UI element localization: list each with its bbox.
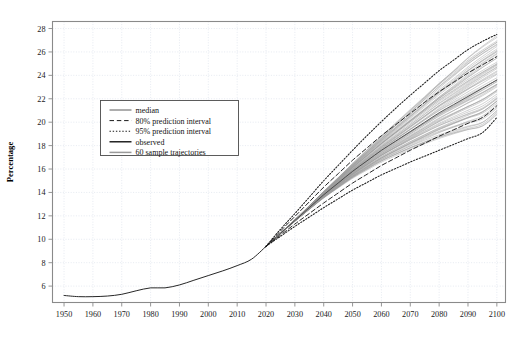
x-tick-label: 1990 [171, 310, 187, 319]
y-tick-label: 26 [37, 48, 45, 57]
y-tick-label: 10 [37, 235, 45, 244]
x-tick-label: 1980 [142, 310, 158, 319]
x-tick-label: 2000 [200, 310, 216, 319]
x-tick-label: 2060 [373, 310, 389, 319]
chart-svg: 1950196019701980199020002010202020302040… [0, 0, 517, 339]
y-tick-label: 14 [37, 188, 45, 197]
y-tick-label: 12 [37, 212, 45, 221]
x-tick-label: 2040 [316, 310, 332, 319]
y-tick-label: 6 [41, 282, 45, 291]
x-tick-label: 2090 [460, 310, 476, 319]
y-tick-label: 18 [37, 142, 45, 151]
x-tick-label: 2080 [431, 310, 447, 319]
legend-label: 80% prediction interval [136, 117, 212, 126]
plot-background [53, 22, 506, 303]
y-tick-label: 24 [37, 71, 45, 80]
x-tick-label: 1970 [114, 310, 130, 319]
y-tick-label: 16 [37, 165, 45, 174]
legend-label: 60 sample trajectories [136, 148, 206, 157]
forecast-fan-chart: 1950196019701980199020002010202020302040… [0, 0, 517, 339]
y-axis-label: Percentage [5, 142, 15, 183]
legend: median80% prediction interval95% predict… [101, 101, 239, 158]
x-tick-label: 2010 [229, 310, 245, 319]
x-tick-label: 2050 [344, 310, 360, 319]
x-tick-label: 1960 [85, 310, 101, 319]
x-tick-label: 2020 [258, 310, 274, 319]
y-tick-label: 22 [37, 95, 45, 104]
x-tick-label: 1950 [56, 310, 72, 319]
legend-label: median [136, 106, 160, 115]
x-tick-label: 2100 [489, 310, 505, 319]
y-tick-label: 8 [41, 259, 45, 268]
legend-label: 95% prediction interval [136, 127, 212, 136]
legend-label: observed [136, 138, 165, 147]
x-tick-label: 2070 [402, 310, 418, 319]
y-tick-label: 28 [37, 25, 45, 34]
y-tick-label: 20 [37, 118, 45, 127]
x-tick-label: 2030 [287, 310, 303, 319]
